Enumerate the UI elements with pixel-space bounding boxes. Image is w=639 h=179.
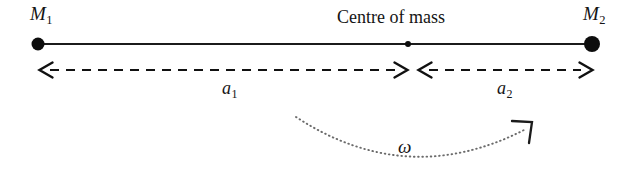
centre-of-mass-dot-icon — [405, 41, 411, 47]
dimension-arrow-a1 — [40, 63, 408, 78]
centre-of-mass-label: Centre of mass — [337, 8, 445, 26]
mass1-dot-icon — [32, 38, 45, 51]
mass1-label: M1 — [30, 4, 53, 26]
mass2-subscript: 2 — [599, 13, 605, 27]
distance1-subscript: 1 — [232, 87, 238, 101]
distance2-symbol: a — [497, 78, 506, 98]
mass2-symbol: M — [583, 3, 599, 24]
distance2-label: a2 — [497, 79, 513, 100]
rotation-arc-omega — [296, 117, 532, 157]
distance2-subscript: 2 — [507, 87, 513, 101]
mass1-subscript: 1 — [46, 13, 52, 27]
mass2-label: M2 — [583, 4, 606, 26]
mass1-symbol: M — [30, 3, 46, 24]
mass2-dot-icon — [584, 36, 600, 52]
diagram-canvas — [0, 0, 639, 179]
distance1-symbol: a — [222, 78, 231, 98]
dimension-arrow-a2 — [419, 63, 593, 78]
distance1-label: a1 — [222, 79, 238, 100]
two-body-centre-of-mass-diagram: M1 M2 Centre of mass a1 a2 ω — [0, 0, 639, 179]
angular-velocity-label: ω — [398, 137, 411, 156]
